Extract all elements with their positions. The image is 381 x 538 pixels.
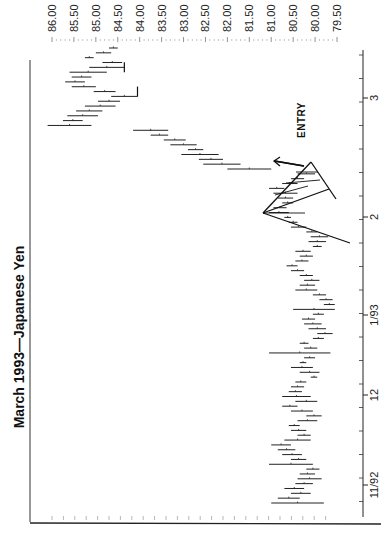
frame-bottom-line (30, 523, 381, 524)
price-tick-label: 84.00 (134, 4, 146, 32)
arrow-up-icon (274, 157, 304, 166)
chart-title: March 1993—Japanese Yen (11, 246, 27, 429)
price-tick-label: 79.50 (331, 4, 343, 32)
entry-label: ENTRY (296, 102, 307, 138)
bottom-tick-row (52, 516, 326, 520)
price-tick-label: 83.00 (178, 4, 190, 32)
price-tick-label: 83.50 (156, 4, 168, 32)
date-tick-label: 1/93 (368, 304, 380, 325)
price-tick-label: 80.50 (287, 4, 299, 32)
price-tick-label: 82.50 (199, 4, 211, 32)
price-tick-label: 84.50 (112, 4, 124, 32)
price-tick-label: 85.50 (68, 4, 80, 32)
price-tick-label: 82.00 (221, 4, 233, 32)
price-tick-label: 81.00 (265, 4, 277, 32)
date-tick-label: 11/92 (368, 472, 380, 499)
date-tick-label: 2 (368, 214, 380, 220)
price-tick-label: 81.50 (243, 4, 255, 32)
date-tick-label: 3 (368, 95, 380, 101)
price-axis: 86.0085.5085.0084.5084.0083.5083.0082.50… (46, 4, 343, 42)
price-tick-label: 80.00 (309, 4, 321, 32)
price-bars (48, 47, 335, 504)
date-tick-label: 12 (368, 389, 380, 401)
yen-futures-chart: March 1993—Japanese Yen 86.0085.5085.008… (0, 0, 381, 538)
price-tick-label: 85.00 (90, 4, 102, 32)
price-tick-label: 86.00 (46, 4, 58, 32)
time-axis: 11/92121/9323 (359, 50, 380, 517)
